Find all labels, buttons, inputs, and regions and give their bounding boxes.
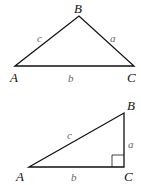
right-angle-marker xyxy=(112,155,124,167)
right-triangle: B A C c a b xyxy=(15,98,135,184)
side-label-b: b xyxy=(71,171,77,183)
triangle-outline xyxy=(29,113,124,167)
side-label-c: c xyxy=(67,129,72,141)
side-label-b: b xyxy=(68,72,74,84)
side-label-c: c xyxy=(37,32,42,44)
side-label-a: a xyxy=(110,32,116,44)
vertex-label-b: B xyxy=(127,98,135,113)
vertex-label-b: B xyxy=(74,1,82,16)
oblique-triangle: B A C c a b xyxy=(9,1,136,85)
vertex-label-a: A xyxy=(9,70,18,85)
triangle-outline xyxy=(15,16,134,66)
vertex-label-a: A xyxy=(15,169,24,184)
side-label-a: a xyxy=(128,138,134,150)
triangles-diagram: B A C c a b B A C c a b xyxy=(0,0,141,185)
vertex-label-c: C xyxy=(127,70,136,85)
vertex-label-c: C xyxy=(124,169,133,184)
